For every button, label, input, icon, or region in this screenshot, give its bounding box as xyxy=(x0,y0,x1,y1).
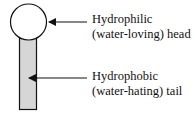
head-label: Hydrophilic (water-loving) head xyxy=(92,12,191,42)
tail-label: Hydrophobic (water-hating) tail xyxy=(92,69,182,99)
tail-label-line2: (water-hating) tail xyxy=(92,84,182,99)
head-label-line2: (water-loving) head xyxy=(92,27,191,42)
hydrophobic-tail xyxy=(20,39,37,110)
hydrophilic-head xyxy=(11,4,47,40)
head-label-line1: Hydrophilic xyxy=(92,12,191,27)
tail-label-line1: Hydrophobic xyxy=(92,69,182,84)
